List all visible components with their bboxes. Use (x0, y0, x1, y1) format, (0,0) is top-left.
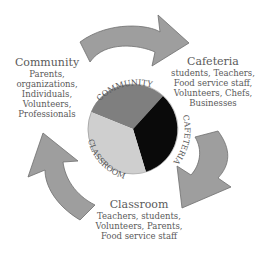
classroom-title: Classroom (84, 199, 194, 211)
cafeteria-line: students, Teachers, (160, 68, 266, 78)
community-line: Individuals, (2, 89, 92, 99)
community-line: Professionals (2, 109, 92, 119)
community-line: Volunteers, (2, 99, 92, 109)
cafeteria-line: Food service staff, (160, 78, 266, 88)
cafeteria-line: Businesses (160, 98, 266, 108)
cafeteria-block: Cafeteria students, Teachers, Food servi… (160, 56, 266, 108)
classroom-line: Teachers, students, (84, 211, 194, 221)
classroom-block: Classroom Teachers, students, Volunteers… (84, 199, 194, 241)
community-line: Parents, (2, 69, 92, 79)
cafeteria-line: Volunteers, Chefs, (160, 88, 266, 98)
classroom-line: Food service staff (84, 231, 194, 241)
community-line: organizations, (2, 79, 92, 89)
community-title: Community (2, 57, 92, 69)
community-block: Community Parents, organizations, Indivi… (2, 57, 92, 119)
classroom-line: Volunteers, Parents, (84, 221, 194, 231)
cafeteria-title: Cafeteria (160, 56, 266, 68)
